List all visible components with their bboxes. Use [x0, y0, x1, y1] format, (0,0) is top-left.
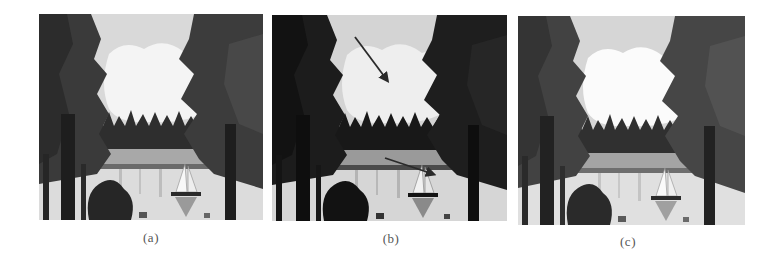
figure-panel-a — [39, 14, 263, 220]
caption-b: (b) — [371, 231, 411, 247]
lake-scene-image-a — [39, 14, 263, 220]
figure-panel-b — [272, 15, 507, 221]
lake-scene-image-c — [518, 16, 745, 225]
caption-a: (a) — [131, 230, 171, 246]
figure-panel-c — [518, 16, 745, 225]
caption-c: (c) — [608, 234, 648, 250]
lake-scene-image-b — [272, 15, 507, 221]
